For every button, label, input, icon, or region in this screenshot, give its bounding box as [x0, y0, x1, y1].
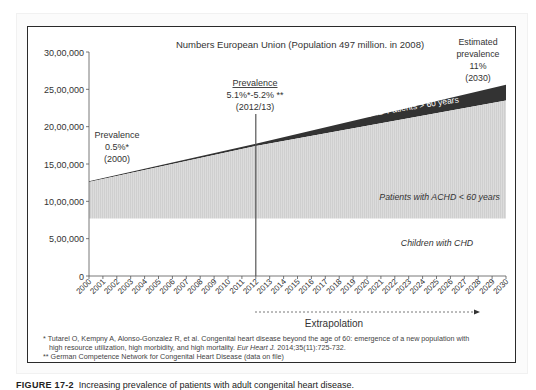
annotation-2012: Prevalence 5.1%*-5.2% ** (2012/13)	[226, 78, 284, 112]
svg-text:Estimated: Estimated	[458, 37, 497, 47]
annotation-2030: Estimated prevalence 11% (2030)	[456, 37, 499, 83]
svg-text:(2030): (2030)	[465, 73, 490, 83]
figure-caption: FIGURE 17-2 Increasing prevalence of pat…	[16, 380, 354, 390]
annotation-2000: Prevalence 0.5%* (2000)	[94, 130, 139, 164]
y-tick-label: 10,00,000	[44, 197, 84, 207]
svg-text:prevalence: prevalence	[456, 49, 499, 59]
footnote-1: * Tutarel O, Kempny A, Alonso-Gonzalez R…	[43, 334, 469, 343]
extrapolation-label: Extrapolation	[305, 318, 363, 329]
chart-title: Numbers European Union (Population 497 m…	[176, 39, 424, 50]
extrapolation-arrow	[255, 310, 480, 315]
svg-text:5.1%*-5.2% **: 5.1%*-5.2% **	[226, 90, 284, 100]
svg-text:(2000): (2000)	[104, 154, 130, 164]
band-label-children: Children with CHD	[401, 238, 474, 248]
svg-text:Prevalence: Prevalence	[94, 130, 139, 140]
band-label-under60: Patients with ACHD < 60 years	[379, 192, 500, 202]
y-tick-label: 15,00,000	[44, 160, 84, 170]
svg-text:0.5%*: 0.5%*	[105, 142, 130, 152]
y-tick-label: 25,00,000	[44, 85, 84, 95]
footnote-2: ** German Competence Network for Congeni…	[43, 352, 284, 361]
y-tick-label: 20,00,000	[44, 122, 84, 132]
y-tick-label: 5,00,000	[49, 234, 84, 244]
svg-text:Prevalence: Prevalence	[232, 78, 277, 88]
y-tick-label: 30,00,000	[44, 48, 84, 58]
svg-text:11%: 11%	[470, 61, 487, 71]
x-tick-label: 2030	[491, 277, 510, 296]
footnote-1-cont: high resource utilization, high morbidit…	[49, 343, 346, 352]
svg-text:(2012/13): (2012/13)	[236, 102, 275, 112]
